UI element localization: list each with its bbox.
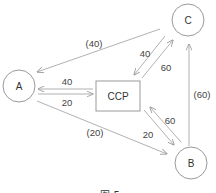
node-c-label: C [184,15,191,26]
edge-label-b-to-ccp: 60 [165,115,176,126]
figure-caption: 图 5 [100,190,120,193]
settlement-flow-diagram: (40) 40 20 (20) 40 60 20 60 (60) A C B C… [0,0,216,193]
edge-label-a-to-b: (20) [87,127,104,138]
edge-label-b-to-c: (60) [194,89,211,100]
node-ccp-label: CCP [107,91,128,102]
node-a-label: A [16,81,23,92]
edge-label-ccp-to-b: 20 [143,129,154,140]
edge-label-a-to-ccp: 20 [62,97,73,108]
node-c: C [172,4,204,36]
node-a: A [3,70,35,102]
node-ccp: CCP [96,81,140,111]
node-b-label: B [188,158,195,169]
edge-label-c-to-a: (40) [86,38,103,49]
edge-label-c-to-ccp: 40 [140,48,151,59]
edge-label-ccp-to-a: 40 [62,76,73,87]
node-b: B [175,147,207,179]
edge-label-ccp-to-c: 60 [161,62,172,73]
